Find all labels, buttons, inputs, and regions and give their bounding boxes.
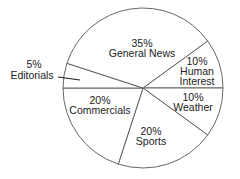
general-news-label: General News [109,47,176,59]
sports-label: Sports [136,135,166,147]
editorials-label: Editorials [10,69,53,81]
commercials-label: Commercials [69,104,130,116]
pie-chart: 35% General News 10% Human Interest 10% … [0,0,240,179]
weather-label: Weather [173,101,213,113]
human-interest-label-2: Interest [179,75,214,87]
